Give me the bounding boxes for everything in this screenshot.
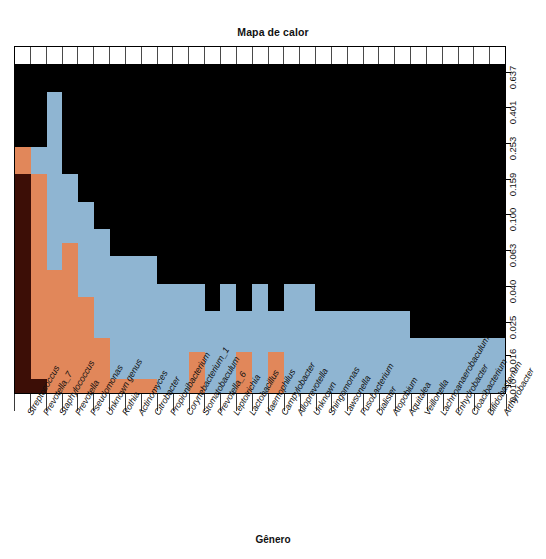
heatmap-cell[interactable] <box>62 106 78 120</box>
heatmap-cell[interactable] <box>62 147 78 161</box>
heatmap-cell[interactable] <box>157 65 173 79</box>
heatmap-cell[interactable] <box>110 133 126 147</box>
heatmap-cell[interactable] <box>15 120 31 134</box>
heatmap-cell[interactable] <box>442 174 458 188</box>
heatmap-cell[interactable] <box>173 215 189 229</box>
heatmap-cell[interactable] <box>110 256 126 270</box>
heatmap-cell[interactable] <box>331 215 347 229</box>
heatmap-cell[interactable] <box>489 161 505 175</box>
heatmap-cell[interactable] <box>426 270 442 284</box>
heatmap-cell[interactable] <box>458 188 474 202</box>
heatmap-cell[interactable] <box>284 120 300 134</box>
heatmap-cell[interactable] <box>489 229 505 243</box>
heatmap-cell[interactable] <box>442 366 458 380</box>
heatmap-cell[interactable] <box>78 147 94 161</box>
heatmap-cell[interactable] <box>173 297 189 311</box>
heatmap-cell[interactable] <box>410 352 426 366</box>
heatmap-cell[interactable] <box>110 243 126 257</box>
heatmap-cell[interactable] <box>47 120 63 134</box>
heatmap-cell[interactable] <box>157 106 173 120</box>
heatmap-cell[interactable] <box>157 311 173 325</box>
heatmap-cell[interactable] <box>15 311 31 325</box>
heatmap-cell[interactable] <box>410 174 426 188</box>
heatmap-cell[interactable] <box>126 243 142 257</box>
heatmap-cell[interactable] <box>94 79 110 93</box>
heatmap-cell[interactable] <box>31 161 47 175</box>
heatmap-cell[interactable] <box>379 174 395 188</box>
heatmap-cell[interactable] <box>47 284 63 298</box>
heatmap-cell[interactable] <box>315 297 331 311</box>
heatmap-cell[interactable] <box>141 270 157 284</box>
heatmap-cell[interactable] <box>300 243 316 257</box>
heatmap-cell[interactable] <box>47 297 63 311</box>
heatmap-cell[interactable] <box>31 338 47 352</box>
heatmap-cell[interactable] <box>126 133 142 147</box>
heatmap-cell[interactable] <box>442 338 458 352</box>
heatmap-cell[interactable] <box>78 133 94 147</box>
heatmap-cell[interactable] <box>489 106 505 120</box>
heatmap-cell[interactable] <box>31 256 47 270</box>
heatmap-cell[interactable] <box>15 256 31 270</box>
heatmap-cell[interactable] <box>331 338 347 352</box>
heatmap-cell[interactable] <box>363 325 379 339</box>
heatmap-cell[interactable] <box>331 229 347 243</box>
heatmap-cell[interactable] <box>15 174 31 188</box>
heatmap-cell[interactable] <box>47 147 63 161</box>
heatmap-cell[interactable] <box>173 79 189 93</box>
heatmap-cell[interactable] <box>205 174 221 188</box>
heatmap-cell[interactable] <box>268 352 284 366</box>
heatmap-cell[interactable] <box>126 215 142 229</box>
heatmap-cell[interactable] <box>284 174 300 188</box>
heatmap-cell[interactable] <box>189 270 205 284</box>
heatmap-cell[interactable] <box>394 256 410 270</box>
heatmap-cell[interactable] <box>347 174 363 188</box>
heatmap-cell[interactable] <box>220 92 236 106</box>
heatmap-cell[interactable] <box>300 284 316 298</box>
heatmap-cell[interactable] <box>442 311 458 325</box>
heatmap-cell[interactable] <box>473 120 489 134</box>
heatmap-cell[interactable] <box>205 311 221 325</box>
heatmap-cell[interactable] <box>236 92 252 106</box>
heatmap-cell[interactable] <box>94 256 110 270</box>
heatmap-cell[interactable] <box>442 133 458 147</box>
heatmap-cell[interactable] <box>284 256 300 270</box>
heatmap-cell[interactable] <box>489 270 505 284</box>
heatmap-cell[interactable] <box>489 133 505 147</box>
heatmap-cell[interactable] <box>473 311 489 325</box>
heatmap-cell[interactable] <box>220 256 236 270</box>
heatmap-cell[interactable] <box>220 202 236 216</box>
heatmap-cell[interactable] <box>15 161 31 175</box>
heatmap-cell[interactable] <box>363 338 379 352</box>
heatmap-cell[interactable] <box>94 297 110 311</box>
heatmap-cell[interactable] <box>47 133 63 147</box>
heatmap-cell[interactable] <box>379 229 395 243</box>
heatmap-cell[interactable] <box>347 325 363 339</box>
heatmap-cell[interactable] <box>78 202 94 216</box>
heatmap-cell[interactable] <box>347 256 363 270</box>
heatmap-cell[interactable] <box>252 311 268 325</box>
heatmap-cell[interactable] <box>236 161 252 175</box>
heatmap-cell[interactable] <box>331 243 347 257</box>
heatmap-cell[interactable] <box>268 120 284 134</box>
heatmap-cell[interactable] <box>363 284 379 298</box>
heatmap-cell[interactable] <box>363 229 379 243</box>
heatmap-cell[interactable] <box>379 147 395 161</box>
heatmap-cell[interactable] <box>331 133 347 147</box>
heatmap-cell[interactable] <box>62 65 78 79</box>
heatmap-cell[interactable] <box>157 92 173 106</box>
heatmap-cell[interactable] <box>300 338 316 352</box>
heatmap-cell[interactable] <box>363 106 379 120</box>
heatmap-cell[interactable] <box>110 147 126 161</box>
heatmap-cell[interactable] <box>189 202 205 216</box>
heatmap-cell[interactable] <box>205 297 221 311</box>
heatmap-cell[interactable] <box>173 161 189 175</box>
heatmap-cell[interactable] <box>236 147 252 161</box>
heatmap-cell[interactable] <box>157 79 173 93</box>
heatmap-cell[interactable] <box>15 147 31 161</box>
heatmap-cell[interactable] <box>300 106 316 120</box>
heatmap-cell[interactable] <box>141 120 157 134</box>
heatmap-cell[interactable] <box>31 133 47 147</box>
heatmap-cell[interactable] <box>157 297 173 311</box>
heatmap-cell[interactable] <box>173 256 189 270</box>
heatmap-cell[interactable] <box>315 270 331 284</box>
